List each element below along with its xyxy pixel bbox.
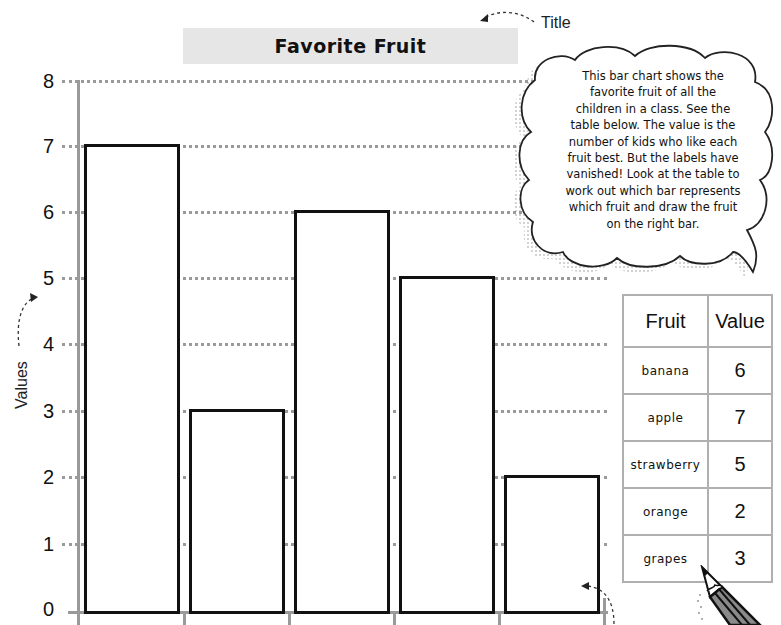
header-value: Value: [708, 295, 772, 347]
table-row: apple 7: [623, 394, 772, 441]
bubble-line: vanished! Look at the table to: [548, 166, 758, 182]
cell-fruit: strawberry: [623, 441, 708, 488]
bubble-line: children in a class. See the: [548, 101, 758, 117]
bar-2: [189, 409, 285, 614]
cell-fruit: banana: [623, 347, 708, 394]
y-tick-6: 6: [24, 201, 54, 224]
bubble-line: work out which bar represents: [548, 183, 758, 199]
title-arrow-icon: [478, 8, 538, 28]
header-fruit: Fruit: [623, 295, 708, 347]
y-tick-4: 4: [24, 333, 54, 356]
chart-title: Favorite Fruit: [183, 28, 518, 64]
x-tick: [183, 611, 186, 625]
cell-value: 7: [708, 394, 772, 441]
bubble-line: number of kids who like each: [548, 134, 758, 150]
y-tick-8: 8: [24, 70, 54, 93]
bubble-line: This bar chart shows the: [548, 68, 758, 84]
y-tick-7: 7: [24, 135, 54, 158]
bubble-line: table below. The value is the: [548, 117, 758, 133]
cell-fruit: apple: [623, 394, 708, 441]
bubble-line: fruit best. But the labels have: [548, 150, 758, 166]
bar-3: [294, 210, 390, 614]
y-tick-0: 0: [24, 598, 54, 621]
bubble-line: favorite fruit of all the: [548, 84, 758, 100]
cell-value: 5: [708, 441, 772, 488]
title-annotation: Title: [541, 14, 571, 32]
x-tick: [498, 611, 501, 625]
x-tick: [393, 611, 396, 625]
bar-4: [399, 276, 495, 614]
cell-value: 2: [708, 488, 772, 535]
table-row: banana 6: [623, 347, 772, 394]
y-tick-5: 5: [24, 267, 54, 290]
cell-fruit: orange: [623, 488, 708, 535]
y-tick-1: 1: [24, 533, 54, 556]
table-row: orange 2: [623, 488, 772, 535]
bubble-text: This bar chart shows the favorite fruit …: [548, 68, 758, 232]
y-tick-2: 2: [24, 466, 54, 489]
x-tick: [288, 611, 291, 625]
bar-1: [84, 144, 180, 614]
bubble-line: on the right bar.: [548, 216, 758, 232]
table-header-row: Fruit Value: [623, 295, 772, 347]
pencil-icon: [690, 565, 781, 625]
y-axis: [77, 80, 80, 625]
fruit-table: Fruit Value banana 6 apple 7 strawberry …: [622, 294, 773, 583]
bar-arrow-icon: [578, 578, 618, 625]
bubble-line: which fruit and draw the fruit: [548, 199, 758, 215]
table-row: strawberry 5: [623, 441, 772, 488]
y-tick-3: 3: [24, 400, 54, 423]
cell-value: 6: [708, 347, 772, 394]
